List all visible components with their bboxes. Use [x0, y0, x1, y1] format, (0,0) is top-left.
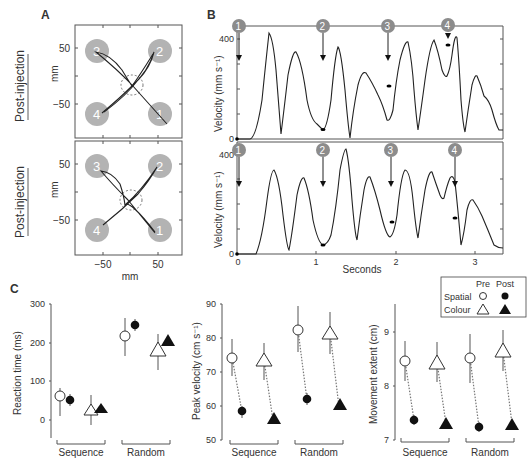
chart-reaction-time: 300 200 100 0 Reaction time (ms) Sequenc… [12, 299, 175, 458]
x-axis-label: mm [122, 271, 139, 282]
target-4: 4 [85, 218, 109, 242]
trajectory-plot-bottom: 50 −50 mm −50 50 mm 3 2 4 1 [49, 141, 182, 282]
y-tick: 90 [206, 299, 216, 309]
svg-text:4: 4 [93, 107, 100, 122]
marker-4: 4 [441, 18, 455, 39]
y-axis-label: Velocity (mm s⁻¹) [213, 171, 224, 248]
legend-col-post: Post [496, 279, 515, 289]
x-tick-50: 50 [152, 259, 164, 270]
category-label: Random [300, 447, 338, 458]
spatial-pre-marker [120, 331, 130, 341]
spatial-pre-marker [227, 353, 237, 363]
filled-circle-icon [502, 293, 509, 300]
event-dot [390, 220, 395, 223]
spatial-pre-marker [400, 356, 410, 366]
marker-3: 3 [381, 19, 395, 61]
colour-post-marker [333, 398, 347, 410]
colour-pre-marker [495, 343, 511, 357]
y-tick-50: 50 [59, 43, 71, 54]
svg-text:4: 4 [445, 20, 451, 31]
colour-pre-marker [256, 353, 272, 366]
spatial-pre-marker [465, 353, 475, 363]
svg-text:2: 2 [320, 21, 326, 32]
colour-pre-marker [429, 355, 445, 369]
spatial-post-marker [66, 396, 75, 405]
x-axis-label: Seconds [343, 264, 382, 275]
event-dot [235, 252, 239, 256]
event-dot [321, 128, 326, 131]
y-axis-label: mm [49, 65, 60, 82]
x-tick-neg50: −50 [95, 259, 112, 270]
legend-col-pre: Pre [476, 279, 490, 289]
y-tick: 100 [30, 376, 45, 386]
trajectory-trace [103, 167, 157, 225]
velocity-plot-top: 400 0 Velocity (mm s⁻¹) 1 2 3 4 [213, 18, 503, 144]
marker-4: 4 [448, 143, 462, 187]
y-tick-400: 400 [219, 34, 234, 44]
figure: A Post-injection Post-injection 50 −50 m… [0, 0, 530, 467]
spatial-post-marker [238, 407, 247, 416]
x-tick-3: 3 [472, 257, 477, 267]
spatial-post-marker [475, 423, 484, 432]
y-tick: 200 [30, 338, 45, 348]
svg-text:1: 1 [156, 223, 163, 238]
svg-text:2: 2 [156, 159, 163, 174]
y-tick: 9 [384, 327, 389, 337]
legend: Pre Post Spatial Colour [441, 277, 526, 317]
colour-post-marker [267, 412, 281, 424]
x-tick-2: 2 [393, 257, 398, 267]
panel-label-b: B [207, 8, 216, 22]
event-dot [321, 243, 326, 246]
event-dot [446, 43, 451, 46]
y-tick: 300 [30, 299, 45, 309]
svg-text:3: 3 [93, 44, 100, 59]
svg-text:1: 1 [156, 107, 163, 122]
colour-post-marker [505, 418, 519, 430]
colour-pre-marker [84, 404, 98, 415]
y-axis-label: Velocity (mm s⁻¹) [213, 55, 224, 132]
y-axis-label: Movement extent (cm) [368, 325, 379, 424]
marker-1: 1 [232, 143, 246, 187]
spatial-pre-marker [293, 325, 303, 335]
velocity-plot-bottom: 400 0 Velocity (mm s⁻¹) 0 1 2 3 Seconds … [213, 142, 503, 275]
y-tick-neg50: −50 [53, 215, 70, 226]
y-axis-label: Peak velocity (cm s⁻¹) [191, 322, 202, 420]
y-tick: 60 [206, 401, 216, 411]
x-tick-0: 0 [235, 257, 240, 267]
x-tick-1: 1 [313, 257, 318, 267]
y-tick-neg50: −50 [53, 99, 70, 110]
category-label: Random [127, 447, 165, 458]
colour-post-marker [161, 334, 175, 346]
category-label: Random [471, 447, 509, 458]
colour-post-marker [94, 403, 108, 413]
y-tick: 50 [206, 435, 216, 445]
row-label-top: Post-injection [13, 50, 28, 122]
y-axis-label: mm [49, 181, 60, 198]
colour-post-marker [439, 417, 453, 429]
category-label: Sequence [402, 447, 447, 458]
target-1: 1 [148, 218, 172, 242]
legend-row-colour: Colour [444, 305, 471, 315]
category-label: Sequence [231, 447, 276, 458]
legend-row-spatial: Spatial [444, 292, 472, 302]
y-tick-400: 400 [219, 150, 234, 160]
svg-text:1: 1 [236, 145, 242, 156]
row-label-bottom: Post-injection [13, 166, 28, 238]
spatial-post-marker [410, 416, 419, 425]
target-3: 3 [85, 154, 109, 178]
marker-3: 3 [384, 143, 398, 187]
y-tick: 8 [384, 381, 389, 391]
panel-label-c: C [10, 282, 19, 296]
y-tick-0: 0 [229, 134, 234, 144]
svg-text:4: 4 [452, 145, 458, 156]
y-axis-label: Reaction time (ms) [12, 331, 23, 415]
marker-2: 2 [316, 143, 330, 187]
spatial-pre-marker [55, 391, 65, 401]
spatial-post-marker [131, 321, 140, 330]
trajectory-plot-top: 50 −50 mm 3 2 4 1 [49, 25, 182, 138]
colour-pre-marker [322, 326, 338, 339]
chart-peak-velocity: 90 80 70 60 50 Peak velocity (cm s⁻¹) Se… [191, 299, 347, 458]
y-tick-50: 50 [59, 159, 71, 170]
target-4: 4 [85, 102, 109, 126]
svg-text:3: 3 [385, 21, 391, 32]
